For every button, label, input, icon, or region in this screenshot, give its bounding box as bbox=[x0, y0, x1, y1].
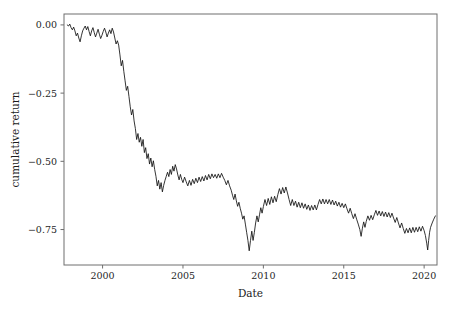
x-tick-label: 2010 bbox=[251, 270, 275, 281]
x-axis-tick-labels: 20002005201020152020 bbox=[90, 270, 436, 281]
y-axis-tick-labels: 0.00−0.25−0.50−0.75 bbox=[28, 19, 57, 235]
plot-area-background bbox=[64, 14, 437, 265]
cumulative-return-line-chart: 20002005201020152020 0.00−0.25−0.50−0.75… bbox=[0, 0, 457, 311]
x-tick-label: 2020 bbox=[412, 270, 436, 281]
y-axis-ticks bbox=[61, 25, 65, 230]
x-tick-label: 2005 bbox=[171, 270, 195, 281]
chart-figure: 20002005201020152020 0.00−0.25−0.50−0.75… bbox=[0, 0, 457, 311]
x-axis-title: Date bbox=[238, 287, 263, 299]
y-tick-label: −0.25 bbox=[28, 88, 57, 99]
y-tick-label: −0.75 bbox=[28, 224, 57, 235]
x-tick-label: 2000 bbox=[90, 270, 114, 281]
y-tick-label: 0.00 bbox=[36, 19, 57, 30]
x-axis-ticks bbox=[103, 265, 425, 269]
y-tick-label: −0.50 bbox=[28, 156, 57, 167]
y-axis-title: cumulative return bbox=[9, 91, 21, 187]
x-tick-label: 2015 bbox=[332, 270, 356, 281]
